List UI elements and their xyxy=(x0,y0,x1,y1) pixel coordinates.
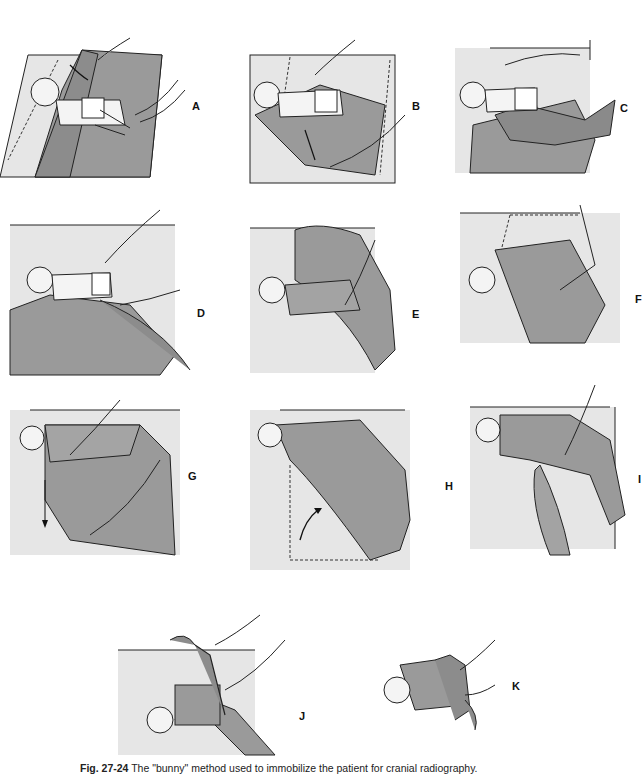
panel-label-b: B xyxy=(412,100,420,112)
panel-label-h: H xyxy=(445,480,453,492)
figure-caption: Fig. 27-24 The "bunny" method used to im… xyxy=(80,762,478,774)
panel-d: D xyxy=(10,205,220,375)
panel-label-d: D xyxy=(197,307,205,319)
illustration-k xyxy=(375,640,525,730)
illustration-b xyxy=(245,35,440,195)
panel-label-c: C xyxy=(620,102,628,114)
illustration-d xyxy=(10,205,220,375)
panel-label-e: E xyxy=(412,308,419,320)
panel-g: G xyxy=(10,400,210,560)
panel-k: K xyxy=(375,640,525,730)
panel-label-j: J xyxy=(299,710,305,722)
panel-i: I xyxy=(470,385,643,570)
panel-f: F xyxy=(460,205,643,350)
illustration-a xyxy=(0,30,220,190)
illustration-f xyxy=(460,205,643,350)
illustration-i xyxy=(470,385,643,570)
illustration-h xyxy=(250,410,440,575)
illustration-e xyxy=(250,220,430,380)
illustration-j xyxy=(115,615,315,755)
panel-c: C xyxy=(455,40,643,190)
panel-b: B xyxy=(245,35,440,195)
panel-label-k: K xyxy=(512,680,520,692)
panel-label-g: G xyxy=(188,470,197,482)
panel-h: H xyxy=(250,410,440,575)
figure-caption-text: The "bunny" method used to immobilize th… xyxy=(131,762,477,774)
panel-label-i: I xyxy=(638,473,641,485)
panel-e: E xyxy=(250,220,430,380)
panel-label-a: A xyxy=(192,100,200,112)
illustration-g xyxy=(10,400,210,560)
panel-label-f: F xyxy=(635,293,642,305)
figure-number: Fig. 27-24 xyxy=(80,762,128,774)
panel-a: A xyxy=(0,30,220,190)
illustration-c xyxy=(455,40,643,190)
panel-j: J xyxy=(115,615,315,755)
